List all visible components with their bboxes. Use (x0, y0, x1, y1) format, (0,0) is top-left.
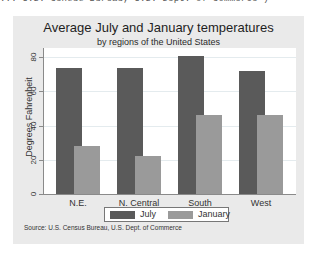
chart-title: Average July and January temperatures (13, 20, 304, 35)
y-tick (39, 91, 43, 92)
y-axis-label: Degrees Fahrenheit (24, 67, 34, 167)
legend-label-january: January (198, 209, 230, 219)
bar-january (135, 156, 161, 194)
y-tick (39, 194, 43, 195)
bar-january (257, 115, 283, 194)
bar-january (196, 115, 222, 194)
graph-region: Average July and January temperatures by… (13, 16, 304, 244)
cropped-code-text: ... U.S. Census Bureau, U.S. Dept. of Co… (0, 0, 314, 6)
legend-label-july: July (140, 209, 156, 219)
gridline (44, 57, 296, 58)
legend-swatch-july (110, 211, 135, 219)
y-axis (43, 48, 44, 194)
y-tick-label: 0 (29, 187, 39, 201)
chart-subtitle: by regions of the United States (13, 37, 304, 47)
legend: July January (104, 207, 229, 222)
x-tick-label: West (231, 198, 291, 208)
y-tick (39, 126, 43, 127)
x-tick-label: N.E. (48, 198, 108, 208)
bar-january (74, 146, 100, 194)
y-tick-label: 80 (29, 50, 39, 64)
source-note: Source: U.S. Census Bureau, U.S. Dept. o… (24, 224, 182, 231)
y-tick (39, 160, 43, 161)
y-tick (39, 57, 43, 58)
legend-swatch-january (168, 211, 193, 219)
x-axis (43, 194, 296, 195)
